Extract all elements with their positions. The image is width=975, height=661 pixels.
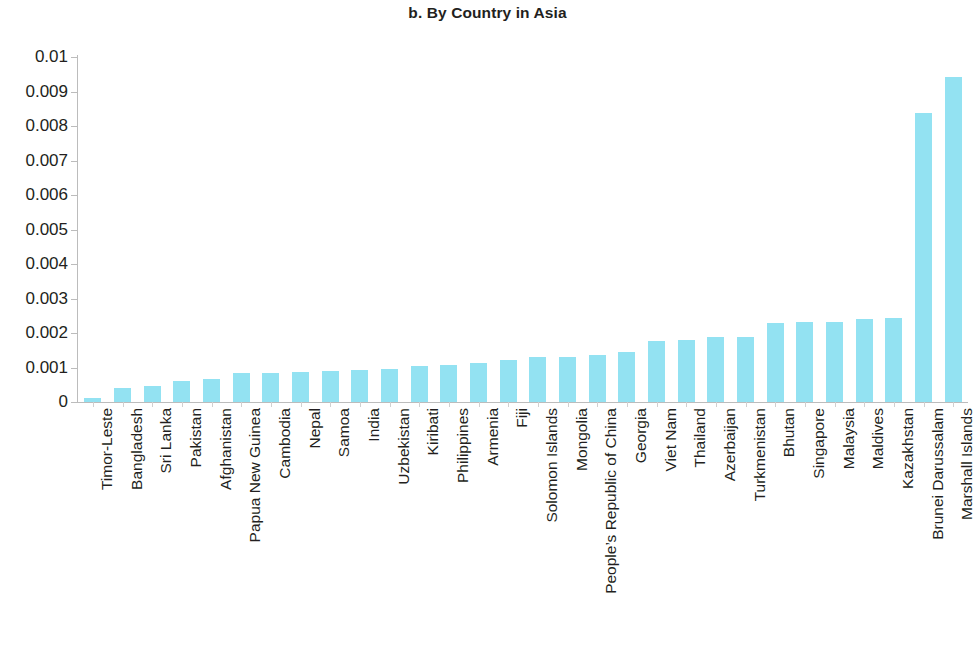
y-tick-mark — [71, 299, 78, 300]
x-axis-label-text: Philippines — [455, 408, 471, 483]
x-tick-mark — [182, 402, 183, 407]
x-axis-label: Armenia — [485, 408, 501, 466]
x-tick-mark — [568, 402, 569, 407]
x-axis-label-text: Azerbaijan — [722, 408, 738, 481]
y-tick-mark — [71, 368, 78, 369]
x-axis-label-text: Kiribati — [425, 408, 441, 455]
y-tick-mark — [71, 92, 78, 93]
bar — [144, 386, 161, 402]
x-axis-label: Turkmenistan — [752, 408, 768, 501]
bar — [500, 360, 517, 402]
x-axis-label-text: Nepal — [307, 408, 323, 449]
y-tick-mark — [71, 333, 78, 334]
x-axis-label-text: Singapore — [811, 408, 827, 479]
x-axis-label: Pakistan — [188, 408, 204, 467]
x-axis-label: Malaysia — [841, 408, 857, 469]
x-axis-label: Sri Lanka — [158, 408, 174, 473]
bar — [648, 341, 665, 402]
x-axis-label-text: Afghanistan — [218, 408, 234, 490]
x-axis-label-text: India — [366, 408, 382, 442]
x-tick-mark — [390, 402, 391, 407]
x-tick-mark — [419, 402, 420, 407]
x-tick-mark — [597, 402, 598, 407]
bar — [322, 371, 339, 402]
x-axis-label: Afghanistan — [218, 408, 234, 490]
x-axis-label: Papua New Guinea — [247, 408, 263, 542]
x-axis-label-text: Kazakhstan — [900, 408, 916, 489]
x-tick-mark — [241, 402, 242, 407]
x-axis-label: Marshall Islands — [959, 408, 975, 520]
x-tick-mark — [152, 402, 153, 407]
x-tick-mark — [360, 402, 361, 407]
x-axis-label: Cambodia — [277, 408, 293, 479]
x-axis-label-text: Sri Lanka — [158, 408, 174, 473]
x-axis-label: Solomon Islands — [544, 408, 560, 523]
x-axis-label: Kazakhstan — [900, 408, 916, 489]
bar — [381, 369, 398, 402]
x-tick-mark — [538, 402, 539, 407]
bar — [233, 373, 250, 402]
x-axis-category-labels: Timor-LesteBangladeshSri LankaPakistanAf… — [78, 408, 968, 658]
x-tick-mark — [686, 402, 687, 407]
y-tick-label: 0.003 — [4, 289, 68, 309]
bar — [203, 379, 220, 402]
bar — [678, 340, 695, 402]
x-tick-mark — [805, 402, 806, 407]
x-axis-label-text: Papua New Guinea — [247, 408, 263, 542]
x-axis-label: Uzbekistan — [396, 408, 412, 485]
x-axis-label: Bhutan — [781, 408, 797, 457]
bar — [737, 337, 754, 402]
y-tick-label: 0.001 — [4, 358, 68, 378]
bar — [767, 323, 784, 402]
x-tick-mark — [301, 402, 302, 407]
x-axis-label: Viet Nam — [663, 408, 679, 471]
y-tick-mark — [71, 230, 78, 231]
x-tick-mark — [123, 402, 124, 407]
chart-title: b. By Country in Asia — [0, 4, 975, 22]
y-tick-mark — [71, 161, 78, 162]
x-tick-mark — [864, 402, 865, 407]
x-axis-label-text: People’s Republic of China — [603, 408, 619, 594]
x-axis-label-text: Samoa — [336, 408, 352, 457]
x-tick-mark — [894, 402, 895, 407]
bar — [529, 357, 546, 402]
x-axis-label-text: Bhutan — [781, 408, 797, 457]
y-tick-mark — [71, 126, 78, 127]
y-axis-tick-labels: 0.010.0090.0080.0070.0060.0050.0040.0030… — [0, 0, 68, 661]
x-axis-label-text: Marshall Islands — [959, 408, 975, 520]
bar-series — [78, 57, 968, 402]
x-tick-mark — [953, 402, 954, 407]
bar — [589, 355, 606, 402]
bar — [173, 381, 190, 402]
y-tick-label: 0 — [4, 392, 68, 412]
x-axis-label-text: Fiji — [514, 408, 530, 428]
x-axis-label: Thailand — [692, 408, 708, 467]
x-axis-label-text: Timor-Leste — [99, 408, 115, 490]
bar — [559, 357, 576, 402]
y-tick-label: 0.01 — [4, 47, 68, 67]
x-axis-label: Philippines — [455, 408, 471, 483]
x-tick-mark — [449, 402, 450, 407]
x-tick-mark — [657, 402, 658, 407]
bar — [826, 322, 843, 402]
x-tick-mark — [775, 402, 776, 407]
bar — [856, 319, 873, 402]
x-axis-label-text: Brunei Darussalam — [930, 408, 946, 540]
bar — [885, 318, 902, 402]
x-tick-mark — [271, 402, 272, 407]
x-axis-label-text: Mongolia — [574, 408, 590, 471]
x-axis-label: Brunei Darussalam — [930, 408, 946, 540]
x-tick-mark — [627, 402, 628, 407]
bar — [262, 373, 279, 402]
x-axis-label: Fiji — [514, 408, 530, 428]
x-axis-label-text: Turkmenistan — [752, 408, 768, 501]
x-tick-mark — [330, 402, 331, 407]
x-axis-label: Mongolia — [574, 408, 590, 471]
bar — [707, 337, 724, 402]
x-tick-mark — [212, 402, 213, 407]
x-tick-mark — [479, 402, 480, 407]
x-axis-label: Samoa — [336, 408, 352, 457]
bar — [618, 352, 635, 402]
x-tick-mark — [924, 402, 925, 407]
x-axis-label: Timor-Leste — [99, 408, 115, 490]
